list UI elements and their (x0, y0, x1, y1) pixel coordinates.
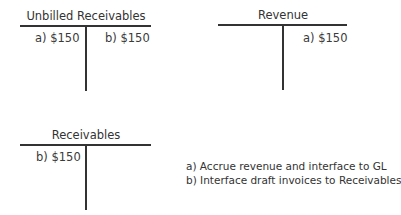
t-vertical-line (85, 144, 87, 210)
t-vertical-line (282, 24, 284, 90)
account-title: Receivables (20, 128, 152, 142)
legend-item-b: b) Interface draft invoices to Receivabl… (186, 174, 401, 188)
legend-item-a: a) Accrue revenue and interface to GL (186, 160, 401, 174)
debit-entry: b) $150 (36, 150, 81, 164)
account-title: Revenue (218, 8, 348, 22)
credit-entry: a) $150 (303, 31, 347, 45)
t-account-receivables: Receivables b) $150 (0, 0, 195, 215)
transaction-legend: a) Accrue revenue and interface to GL b)… (186, 160, 401, 187)
